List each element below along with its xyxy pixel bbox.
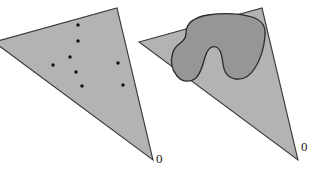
sample-point bbox=[80, 84, 83, 87]
sample-point bbox=[51, 63, 54, 66]
right-panel bbox=[139, 8, 298, 160]
figure-canvas: 0 0 bbox=[0, 0, 320, 174]
sample-point bbox=[76, 39, 79, 42]
origin-label-right: 0 bbox=[301, 140, 308, 153]
sample-point bbox=[121, 83, 124, 86]
figure-svg bbox=[0, 0, 320, 174]
cone-region-left bbox=[0, 8, 153, 160]
origin-label-left: 0 bbox=[156, 152, 163, 165]
sample-point bbox=[76, 23, 79, 26]
sample-point bbox=[74, 70, 77, 73]
sample-point bbox=[116, 61, 119, 64]
left-panel bbox=[0, 8, 153, 160]
sample-point bbox=[68, 55, 71, 58]
